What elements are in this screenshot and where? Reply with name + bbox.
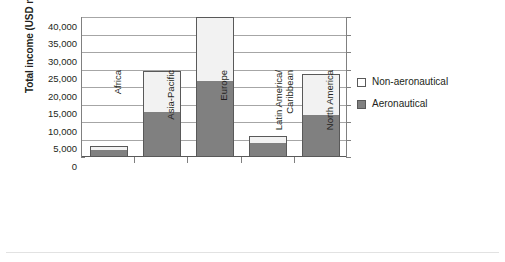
y-axis-tick-label: 30,000 xyxy=(48,57,77,67)
y-axis-tick-label: 10,000 xyxy=(48,127,77,137)
y-axis-right-tick-mark xyxy=(346,17,351,18)
legend-item-label: Aeronautical xyxy=(372,99,428,109)
legend-item: Non-aeronautical xyxy=(357,74,497,90)
y-axis-right-tick-mark xyxy=(346,52,351,53)
y-axis-right-tick-mark xyxy=(346,140,351,141)
bottom-divider xyxy=(6,252,499,253)
x-axis-category-label: Asia-Pacific xyxy=(165,70,176,166)
y-axis-right-tick-mark xyxy=(346,105,351,106)
y-axis-tick-label: 15,000 xyxy=(48,109,77,119)
stacked-bar-chart: Total income (USD million) 05,00010,0001… xyxy=(0,0,505,262)
x-axis-tick-mark xyxy=(134,157,135,163)
legend-swatch-non-aeronautical xyxy=(357,78,366,87)
chart-legend: Non-aeronauticalAeronautical xyxy=(357,74,497,118)
y-axis-right-tick-mark xyxy=(346,70,351,71)
y-axis-tick-label: 40,000 xyxy=(48,22,77,32)
y-axis-tick-label: 35,000 xyxy=(48,39,77,49)
x-axis-tick-mark xyxy=(187,157,188,163)
legend-item: Aeronautical xyxy=(357,96,497,112)
x-axis-category-label: Europe xyxy=(218,70,229,166)
y-axis-tick-labels: 05,00010,00015,00020,00025,00030,00035,0… xyxy=(34,10,81,162)
y-axis-tick-label: 5,000 xyxy=(53,144,77,154)
legend-swatch-aeronautical xyxy=(357,100,366,109)
y-axis-tick-label: 25,000 xyxy=(48,74,77,84)
y-axis-right-tick-mark xyxy=(346,35,351,36)
legend-item-label: Non-aeronautical xyxy=(372,77,448,87)
y-axis-tick-label: 20,000 xyxy=(48,92,77,102)
x-axis-category-label: North America xyxy=(324,70,335,166)
y-axis-right-tick-mark xyxy=(346,122,351,123)
y-axis-tick-label: 0 xyxy=(72,162,77,172)
x-axis-tick-mark xyxy=(241,157,242,163)
y-axis-right-tick-mark xyxy=(346,87,351,88)
x-axis-category-label: Latin America/ Caribbean xyxy=(273,70,295,166)
x-axis-category-label: Africa xyxy=(112,70,123,166)
